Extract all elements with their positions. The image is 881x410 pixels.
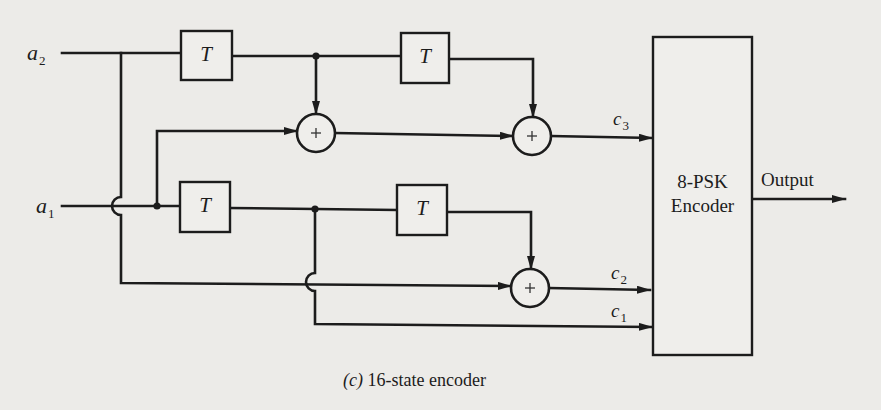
- delay-label-t4: T: [397, 196, 447, 221]
- t3-tap-wire: [306, 209, 652, 327]
- encoder-label-line1: 8-PSK: [653, 170, 752, 194]
- delay-label-t1: T: [181, 42, 231, 67]
- encoder-label: 8-PSK Encoder: [653, 170, 752, 218]
- t2-out-wire: [449, 59, 533, 117]
- delay-label-t2: T: [400, 44, 450, 69]
- figure-caption: (c) 16-state encoder: [343, 370, 486, 391]
- bit-label-c2: c2: [611, 262, 627, 288]
- t4-out-wire: [447, 212, 531, 269]
- adder-2: [513, 117, 551, 155]
- output-label: Output: [761, 169, 814, 191]
- delay-label-t3: T: [180, 193, 230, 218]
- bit-label-c1: c1: [611, 300, 627, 326]
- junction-dot: [311, 205, 318, 212]
- c2-wire: [549, 288, 650, 290]
- encoder-label-line2: Encoder: [653, 194, 752, 218]
- c3-wire: [551, 136, 652, 138]
- input-label-a1: a1: [36, 193, 55, 222]
- adder-3: [511, 269, 549, 307]
- bit-label-c3: c3: [613, 108, 629, 134]
- adder-1: [297, 114, 335, 152]
- add1-to-add2-wire: [335, 133, 513, 136]
- input-label-a2: a2: [27, 40, 46, 69]
- junction-dot: [153, 202, 160, 209]
- a2-branch-wire: [112, 53, 511, 286]
- junction-dot: [312, 52, 319, 59]
